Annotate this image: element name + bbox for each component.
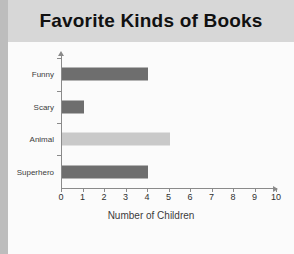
category-label-funny: Funny [8, 70, 54, 79]
chart-title-band: Favorite Kinds of Books [8, 0, 294, 42]
x-tick-label: 0 [51, 192, 71, 202]
y-axis-tick [57, 91, 61, 92]
category-label-scary: Scary [8, 103, 54, 112]
x-axis-line [61, 188, 273, 189]
x-tick-label: 8 [223, 192, 243, 202]
x-tick-label: 3 [116, 192, 136, 202]
y-axis-tick [57, 123, 61, 124]
y-axis-arrow-icon [58, 51, 64, 56]
x-tick-label: 7 [202, 192, 222, 202]
page-title: Favorite Kinds of Books [39, 10, 262, 32]
x-tick-label: 4 [137, 192, 157, 202]
bar-chart-plot: Funny Scary Animal Superhero 0 1 2 3 4 5… [8, 42, 294, 254]
category-label-superhero: Superhero [8, 168, 54, 177]
x-tick-label: 9 [245, 192, 265, 202]
y-axis-tick [57, 58, 61, 59]
x-tick-label: 10 [266, 192, 286, 202]
plot-card: Funny Scary Animal Superhero 0 1 2 3 4 5… [8, 42, 294, 254]
bar-animal [62, 133, 170, 146]
x-axis-title: Number of Children [8, 210, 294, 221]
x-tick-label: 1 [73, 192, 93, 202]
bar-superhero [62, 166, 148, 179]
bar-scary [62, 101, 84, 114]
category-label-animal: Animal [8, 135, 54, 144]
x-tick-label: 5 [159, 192, 179, 202]
x-tick-label: 6 [180, 192, 200, 202]
chart-card: Favorite Kinds of Books [8, 0, 294, 254]
x-tick-label: 2 [94, 192, 114, 202]
y-axis-tick [57, 155, 61, 156]
bar-funny [62, 68, 148, 81]
